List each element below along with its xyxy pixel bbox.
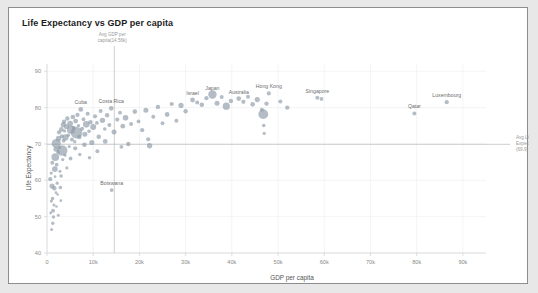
- annotation-label: Cuba: [75, 99, 88, 105]
- data-point: [75, 113, 79, 117]
- data-point: [68, 145, 71, 148]
- data-point: [69, 157, 73, 161]
- x-tick-label-6: 60k: [320, 259, 329, 265]
- x-tick-label-7: 70k: [366, 259, 375, 265]
- data-point: [78, 107, 83, 112]
- data-point: [56, 182, 59, 185]
- annotation-label: Israel: [186, 90, 199, 96]
- data-point: [48, 177, 52, 181]
- data-point: [165, 112, 170, 117]
- data-point: [77, 124, 81, 128]
- data-point: [59, 186, 63, 190]
- data-point: [82, 142, 87, 147]
- data-point: [61, 158, 64, 161]
- data-point: [55, 191, 58, 194]
- data-point: [64, 154, 67, 157]
- data-point: [255, 97, 260, 102]
- axis-lines: [47, 64, 486, 253]
- annotation-label: Australia: [229, 89, 249, 95]
- data-point: [178, 103, 183, 108]
- x-tick-label-8: 80k: [412, 259, 421, 265]
- data-point: [50, 228, 53, 231]
- x-tick-label-2: 20k: [135, 259, 144, 265]
- data-point: [215, 101, 220, 106]
- y-axis-title: Life Expectancy: [25, 145, 33, 191]
- data-point: [80, 127, 84, 131]
- data-point: [161, 121, 165, 125]
- data-point: [87, 129, 91, 133]
- data-point: [52, 215, 55, 218]
- annotation-label: Hong Kong: [256, 83, 282, 89]
- data-point: [50, 171, 53, 174]
- data-point: [129, 122, 133, 126]
- ref-label-avg-life-expectancy: (69.9): [516, 147, 528, 152]
- data-point: [59, 199, 62, 202]
- data-point: [109, 106, 114, 111]
- data-point: [126, 142, 130, 146]
- data-point: [263, 132, 266, 135]
- data-point: [133, 109, 138, 114]
- data-point: [63, 129, 66, 132]
- chart-plot-area: 010k20k30k40k50k60k70k80k90k 90807060504…: [9, 8, 529, 285]
- data-point: [223, 103, 230, 110]
- data-point: [315, 96, 319, 100]
- data-point: [147, 143, 152, 148]
- x-tick-label-9: 90k: [458, 259, 467, 265]
- data-point: [82, 117, 86, 121]
- data-point: [73, 146, 77, 150]
- annotation-label: Singapore: [306, 88, 330, 94]
- data-point: [49, 212, 52, 215]
- data-point: [57, 214, 60, 217]
- data-point: [58, 170, 61, 173]
- ref-label-avg-gdp: Avg GDP per: [99, 32, 126, 37]
- data-point: [52, 204, 55, 207]
- data-point: [267, 91, 271, 95]
- data-point: [120, 124, 125, 129]
- data-point: [50, 199, 53, 202]
- annotation-label: Japan: [205, 85, 219, 91]
- data-point: [412, 111, 416, 115]
- y-axis-ticks: 908070605040: [35, 68, 47, 256]
- data-point: [264, 101, 268, 105]
- data-point: [50, 161, 54, 165]
- data-point: [278, 99, 282, 103]
- x-tick-label-4: 40k: [227, 259, 236, 265]
- x-tick-label-0: 0: [45, 259, 48, 265]
- data-point: [258, 109, 268, 119]
- y-tick-label-5: 40: [35, 250, 41, 256]
- data-point: [103, 127, 107, 131]
- grid-lines: [47, 64, 486, 253]
- data-point: [89, 140, 94, 145]
- data-point: [246, 95, 250, 99]
- data-point: [229, 99, 233, 103]
- y-tick-label-4: 50: [35, 214, 41, 220]
- data-point: [78, 153, 81, 156]
- data-point: [52, 186, 56, 190]
- data-point: [183, 109, 187, 113]
- y-tick-label-2: 70: [35, 141, 41, 147]
- x-axis-title: GDP per capita: [270, 274, 314, 282]
- data-point: [236, 96, 241, 101]
- data-point: [174, 119, 178, 123]
- annotation-label: Botswana: [100, 180, 123, 186]
- data-point: [88, 120, 92, 124]
- data-point: [99, 109, 103, 113]
- data-point: [118, 111, 122, 115]
- scatter-chart: 010k20k30k40k50k60k70k80k90k 90807060504…: [9, 8, 529, 285]
- ref-label-avg-life-expectancy: Expectancy: [516, 141, 529, 146]
- data-point: [73, 119, 78, 124]
- data-point: [96, 134, 101, 139]
- data-point: [65, 166, 68, 169]
- data-point: [54, 175, 57, 178]
- data-point: [93, 114, 97, 118]
- data-point: [110, 188, 114, 192]
- data-point: [65, 116, 69, 120]
- annotation-label: Qatar: [408, 103, 421, 109]
- data-point: [250, 102, 255, 107]
- data-point: [100, 118, 105, 123]
- data-point: [262, 124, 266, 128]
- x-axis-ticks: 010k20k30k40k50k60k70k80k90k: [45, 253, 467, 265]
- data-point: [151, 115, 155, 119]
- data-point: [143, 108, 148, 113]
- data-point: [120, 145, 124, 149]
